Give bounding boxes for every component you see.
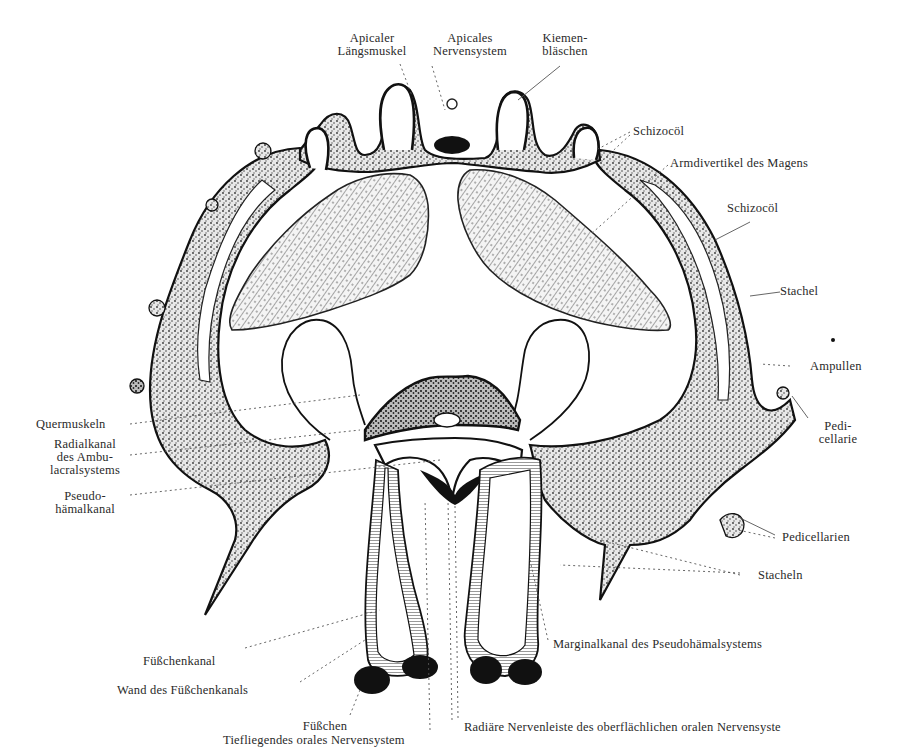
starfish-arm-cross-section — [0, 0, 908, 749]
label-line: bläschen — [530, 45, 600, 58]
label-line: cellarie — [808, 433, 868, 446]
pedicellaria-left-2 — [130, 379, 144, 393]
label-pedicellarie: Pedi- cellarie — [808, 420, 868, 446]
fuesschen-sucker-3 — [470, 656, 502, 684]
pedicellaria-left-1 — [149, 300, 165, 316]
label-ampullen: Ampullen — [810, 360, 862, 373]
label-kiemenblaeschen: Kiemen- bläschen — [530, 32, 600, 58]
dorsal-wall — [300, 85, 600, 173]
pedicellaria-right-1 — [777, 387, 789, 399]
apical-tubercle — [447, 99, 457, 109]
label-stacheln: Stacheln — [758, 569, 803, 582]
fuesschen-sucker-1 — [354, 666, 390, 694]
kiemenblaeschen-mid — [497, 92, 528, 150]
kiemenblaeschen-farright — [574, 128, 599, 160]
fuesschen-sucker-4 — [508, 659, 542, 685]
label-marginalkanal: Marginalkanal des Pseudohämalsystems — [553, 638, 762, 651]
label-wand-fuesschenkanal: Wand des Füßchenkanals — [117, 684, 248, 697]
label-armdivertikel: Armdivertikel des Magens — [670, 157, 808, 170]
ambulacral-ossicle — [365, 376, 520, 440]
radialkanal-lumen — [434, 413, 460, 427]
kiemenblaeschen-farleft — [306, 128, 329, 170]
label-line: Längsmuskel — [322, 45, 422, 58]
apical-nerve-mass — [434, 136, 470, 154]
pedicellaria-left-4 — [206, 199, 218, 211]
label-schizocoel-top: Schizocöl — [633, 125, 684, 138]
stray-dot — [831, 338, 835, 342]
fuesschen-sucker-2 — [402, 655, 438, 679]
label-apicaler-laengsmuskel: Apicaler Längsmuskel — [322, 32, 422, 58]
label-tiefliegendes: Tiefliegendes orales Nervensystem — [223, 734, 405, 747]
pedicellaria-left-3 — [255, 143, 271, 159]
label-apicales-nervensystem: Apicales Nervensystem — [420, 32, 520, 58]
label-radiaere-nervenleiste: Radiäre Nervenleiste des oberflächlichen… — [464, 721, 781, 734]
label-stachel: Stachel — [780, 285, 818, 298]
label-fuesschenkanal: Füßchenkanal — [143, 655, 216, 668]
ampulla-left — [282, 320, 365, 440]
label-pedicellarien: Pedicellarien — [782, 531, 850, 544]
ampulla-right — [510, 320, 589, 440]
label-radialkanal: Radialkanal des Ambu- lacralsystems — [40, 438, 130, 477]
label-pseudohaemalkanal: Pseudo- hämalkanal — [40, 490, 130, 516]
label-line: hämalkanal — [40, 503, 130, 516]
pedicellaria-right-2 — [720, 514, 744, 538]
label-fuesschen: Füßchen — [270, 720, 380, 733]
kiemenblaeschen-left — [380, 84, 414, 150]
label-line: lacralsystems — [40, 464, 130, 477]
label-line: Nervensystem — [420, 45, 520, 58]
label-schizocoel-right: Schizocöl — [727, 202, 778, 215]
label-quermuskeln: Quermuskeln — [36, 418, 106, 431]
